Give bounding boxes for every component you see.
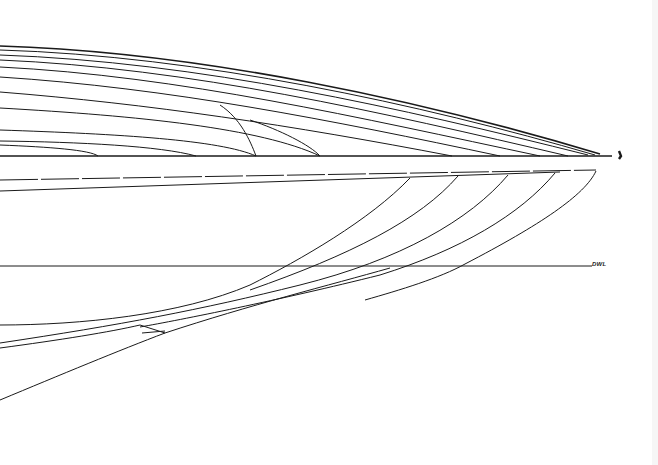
arc-b [220, 105, 256, 156]
keel-line [0, 325, 165, 348]
hull-lines-drawing [0, 0, 658, 465]
rabbet-line [165, 268, 390, 333]
waterline-8 [0, 130, 256, 156]
waterline-9 [0, 141, 196, 156]
buttock-2 [250, 176, 458, 290]
forefoot-line [0, 333, 165, 400]
waterline-1 [0, 50, 595, 155]
waterline-10 [0, 145, 98, 156]
stem-profile [365, 171, 596, 300]
half-breadth-plan [0, 46, 621, 159]
waterline-3 [0, 60, 568, 156]
dwl-label: DWL [592, 261, 606, 267]
waterline-4 [0, 67, 540, 156]
buttock-1 [0, 178, 410, 325]
sheer-profile [0, 170, 596, 180]
buttock-4 [140, 173, 555, 327]
profile-plan [0, 170, 596, 400]
stem-tip-mark [619, 151, 621, 159]
buttock-3 [0, 175, 508, 343]
arc-a [250, 120, 320, 156]
